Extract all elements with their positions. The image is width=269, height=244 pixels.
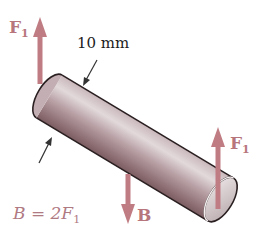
equation-lhs: B [13,203,26,223]
label-b: B [137,205,151,225]
dimension-arrow-bottom [39,137,52,163]
dimension-arrow-top [83,60,97,86]
rod-free-body-diagram: F1 10 mm F1 B B = 2F1 [0,0,269,244]
equation-subscript: 1 [73,213,80,226]
force-symbol: F [9,17,21,37]
force-arrow-b [121,174,135,224]
label-diameter: 10 mm [77,34,129,52]
force-subscript: 1 [242,143,250,156]
label-f1-right: F1 [230,133,250,156]
equation-rhs: = 2F [26,203,74,223]
label-f1-left: F1 [9,17,29,40]
relation-equation: B = 2F1 [13,203,80,226]
force-arrow-f1-left [33,17,47,84]
force-subscript: 1 [21,27,29,40]
force-symbol: F [230,133,242,153]
